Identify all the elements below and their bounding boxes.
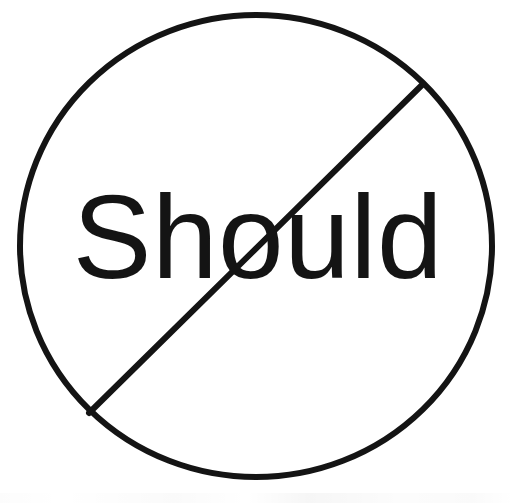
should-word-text: Should xyxy=(73,171,443,303)
image-canvas: No Should A black circle with a diagonal… xyxy=(0,0,514,503)
prohibition-sign-figure: No Should A black circle with a diagonal… xyxy=(0,0,514,503)
